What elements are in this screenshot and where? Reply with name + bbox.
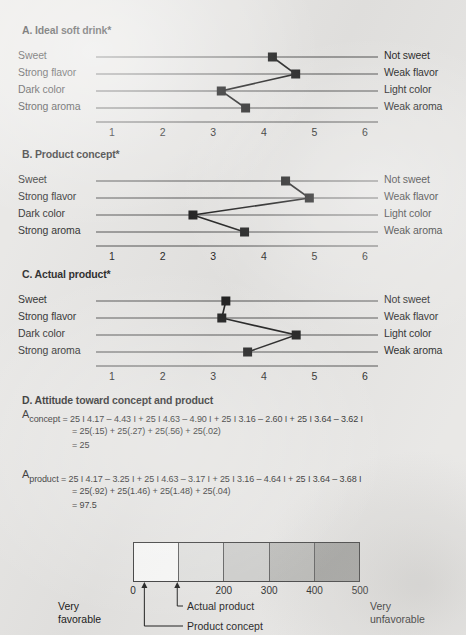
- formula-concept-line2: = 25(.15) + 25(.27) + 25(.56) + 25(.02): [72, 426, 221, 436]
- scale-anchor-favorable: Very favorable: [58, 600, 101, 626]
- scale-anchor-favorable-line2: favorable: [58, 613, 101, 626]
- formula-product-line2: = 25(.92) + 25(1.46) + 25(1.48) + 25(.04…: [72, 486, 231, 496]
- data-marker-1: [305, 194, 314, 203]
- data-marker-2: [217, 87, 226, 96]
- panel-c-snake-plot: SweetStrong flavorDark colorStrong aroma…: [0, 288, 466, 388]
- profile-polyline: [221, 57, 295, 108]
- profile-polyline: [222, 301, 296, 352]
- formula-product-subscript: product: [29, 474, 58, 484]
- data-marker-3: [240, 228, 249, 237]
- profile-polyline: [193, 181, 309, 232]
- scale-cell-0: [134, 543, 179, 581]
- attitude-scale-bar: [133, 542, 360, 582]
- data-marker-3: [241, 104, 250, 113]
- data-marker-0: [221, 297, 230, 306]
- snake-plot-graphics: [0, 288, 466, 388]
- snake-plot-graphics: [0, 44, 466, 144]
- scale-cell-4: [315, 543, 359, 581]
- formula-concept-subscript: concept: [29, 414, 60, 424]
- callout-label-actual-product: Actual product: [187, 600, 254, 612]
- formula-concept: Aconcept = 25 I 4.17 – 4.43 I + 25 I 4.6…: [22, 412, 363, 424]
- scale-tick-200: 200: [215, 585, 232, 596]
- scale-cell-3: [270, 543, 315, 581]
- formula-product-line3: = 97.5: [72, 500, 97, 510]
- formula-product: Aproduct = 25 I 4.17 – 3.25 I + 25 I 4.6…: [22, 472, 361, 484]
- scale-anchor-unfavorable: Very unfavorable: [370, 600, 425, 626]
- data-marker-1: [291, 70, 300, 79]
- leader-actual-product: [177, 588, 183, 606]
- scale-tick-500: 500: [352, 585, 369, 596]
- arrowhead-product-concept: [141, 582, 147, 588]
- snake-plot-graphics: [0, 168, 466, 268]
- arrowhead-actual-product: [174, 582, 180, 588]
- panel-b-snake-plot: SweetStrong flavorDark colorStrong aroma…: [0, 168, 466, 268]
- scale-anchor-unfavorable-line1: Very: [370, 600, 425, 613]
- scale-cell-2: [224, 543, 269, 581]
- formula-product-symbol: A: [22, 468, 29, 480]
- scale-anchor-unfavorable-line2: unfavorable: [370, 613, 425, 626]
- data-marker-1: [217, 314, 226, 323]
- data-marker-2: [292, 331, 301, 340]
- scale-tick-300: 300: [261, 585, 278, 596]
- panel-a-snake-plot: SweetStrong flavorDark colorStrong aroma…: [0, 44, 466, 144]
- panel-c-title: C. Actual product*: [22, 268, 111, 280]
- panel-b-title: B. Product concept*: [22, 148, 120, 160]
- panel-a-title: A. Ideal soft drink*: [22, 24, 111, 36]
- callout-label-product-concept: Product concept: [187, 620, 263, 632]
- scale-anchor-favorable-line1: Very: [58, 600, 101, 613]
- formula-product-line1: = 25 I 4.17 – 3.25 I + 25 I 4.63 – 3.17 …: [61, 474, 361, 484]
- scale-tick-400: 400: [306, 585, 323, 596]
- data-marker-3: [243, 348, 252, 357]
- scale-cell-1: [179, 543, 224, 581]
- formula-concept-line1: = 25 I 4.17 – 4.43 I + 25 I 4.63 – 4.90 …: [62, 414, 362, 424]
- formula-concept-line3: = 25: [72, 440, 89, 450]
- data-marker-2: [188, 211, 197, 220]
- scale-tick-0: 0: [130, 585, 136, 596]
- data-marker-0: [268, 53, 277, 62]
- formula-concept-symbol: A: [22, 408, 29, 420]
- figure-canvas: A. Ideal soft drink* SweetStrong flavorD…: [0, 0, 466, 635]
- data-marker-0: [281, 177, 290, 186]
- leader-product-concept: [144, 588, 183, 626]
- panel-d-title: D. Attitude toward concept and product: [22, 394, 213, 406]
